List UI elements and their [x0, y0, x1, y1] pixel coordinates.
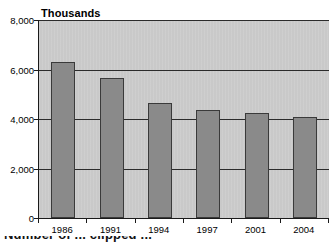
- x-axis-label-1994: 1994: [148, 224, 169, 235]
- plot-area: [38, 20, 329, 219]
- bar-1986[interactable]: [51, 62, 75, 218]
- gridline-6000: [39, 70, 329, 71]
- y-tick-8000: [34, 20, 38, 21]
- y-axis-labels: 02,0004,0006,0008,000: [0, 0, 34, 242]
- x-axis-label-1991: 1991: [100, 224, 121, 235]
- gridline-4000: [39, 119, 329, 120]
- caption-text: Number of ... clipped ...: [4, 236, 152, 242]
- y-axis-label: 0: [0, 213, 34, 224]
- x-axis-label-1986: 1986: [52, 224, 73, 235]
- x-tick: [231, 219, 232, 223]
- x-tick: [280, 219, 281, 223]
- x-axis-label-1997: 1997: [197, 224, 218, 235]
- bar-chart: Thousands 02,0004,0006,0008,000 Number o…: [0, 0, 335, 242]
- bar-1997[interactable]: [196, 110, 220, 218]
- x-tick: [183, 219, 184, 223]
- x-axis-label-2001: 2001: [245, 224, 266, 235]
- x-tick: [86, 219, 87, 223]
- bar-1994[interactable]: [148, 103, 172, 218]
- bar-2004[interactable]: [293, 117, 317, 218]
- chart-title: Thousands: [41, 7, 101, 19]
- y-tick-6000: [34, 70, 38, 71]
- bar-1991[interactable]: [100, 78, 124, 218]
- x-tick: [135, 219, 136, 223]
- x-tick-origin: [38, 219, 39, 223]
- gridline-2000: [39, 169, 329, 170]
- x-tick: [328, 219, 329, 223]
- gridline-8000: [39, 20, 329, 21]
- y-axis-label: 6,000: [0, 64, 34, 75]
- y-axis-label: 2,000: [0, 163, 34, 174]
- y-tick-4000: [34, 119, 38, 120]
- bar-2001[interactable]: [245, 113, 269, 218]
- caption-clip: Number of ... clipped ...: [0, 236, 335, 242]
- y-axis-label: 8,000: [0, 15, 34, 26]
- y-axis-label: 4,000: [0, 114, 34, 125]
- x-axis-label-2004: 2004: [293, 224, 314, 235]
- y-tick-2000: [34, 169, 38, 170]
